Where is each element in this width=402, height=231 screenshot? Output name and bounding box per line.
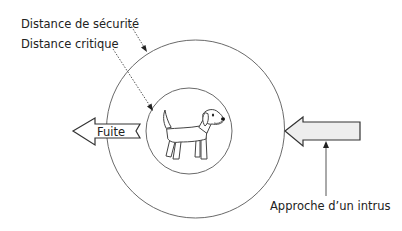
diagram-svg: Distance de sécurité Distance critique F… [0, 0, 402, 231]
dog-front-leg-far [195, 140, 200, 157]
intruder-arrow [285, 117, 360, 146]
intruder-arrow-shape [285, 117, 360, 146]
intruder-pointer [323, 141, 329, 196]
safety-distance-label: Distance de sécurité [21, 17, 139, 31]
critical-distance-label: Distance critique [21, 37, 119, 51]
intruder-approach-label: Approche d’un intrus [270, 199, 391, 213]
critical-distance-pointer [113, 49, 153, 111]
critical-pointer-line [113, 49, 150, 106]
intruder-pointer-arrowhead [323, 141, 329, 148]
diagram-canvas: Distance de sécurité Distance critique F… [0, 0, 402, 231]
dog-icon [164, 110, 225, 159]
dog-tail [164, 110, 171, 128]
safety-pointer-arrowhead [141, 45, 147, 52]
dog-eye [212, 113, 214, 116]
flight-label: Fuite [97, 125, 125, 139]
critical-pointer-arrowhead [147, 104, 153, 112]
dog-nose [221, 117, 225, 120]
